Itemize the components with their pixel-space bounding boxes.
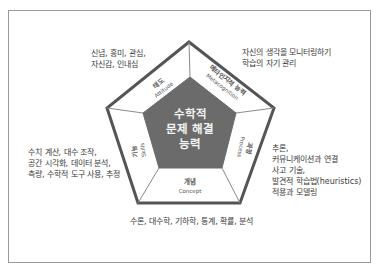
skills-description: 수치 계산, 대수 조작, 공간 시각화, 데이터 분석, 측량, 수학적 도구…	[28, 147, 120, 180]
attitude-description: 신념, 흥미, 관심, 자신감, 인내심	[91, 48, 146, 70]
concept-description: 수론, 대수학, 기하학, 통계, 확률, 분석	[130, 216, 253, 227]
metacognition-description: 자신의 생각을 모니터링하기 학습의 자기 관리	[242, 47, 331, 69]
concept-label-ko: 개념	[184, 177, 196, 186]
process-description: 추론, 커뮤니케이션과 연결 사고 기술, 발견적 학습법(heuristics…	[272, 143, 361, 198]
center-label: 수학적 문제 해결 능력	[150, 107, 230, 152]
concept-label-en: Concept	[179, 188, 203, 195]
